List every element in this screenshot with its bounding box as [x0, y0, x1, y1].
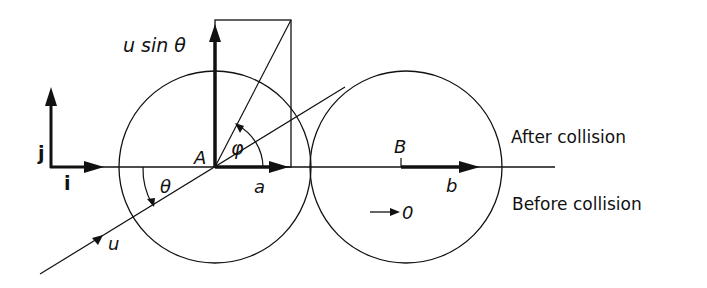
incoming-velocity-line — [40, 87, 345, 274]
resultant-velocity-line — [215, 20, 291, 167]
u-sin-theta-label: u sin θ — [123, 34, 186, 56]
vector-b-label: b — [446, 175, 457, 196]
angle-phi-label: φ — [231, 137, 244, 159]
up-arrow-icon — [209, 24, 221, 42]
j-arrow-icon — [45, 87, 57, 106]
collision-diagram: u sin θ A φ θ a B b u i j 0 After collis… — [0, 0, 707, 288]
u-arrow-icon — [92, 235, 103, 245]
vector-u-label: u — [108, 233, 119, 254]
vector-a-label: a — [254, 176, 265, 197]
unit-i-label: i — [64, 172, 71, 194]
phi-arrow-icon — [235, 123, 244, 133]
point-a-label: A — [193, 147, 206, 168]
after-collision-label: After collision — [511, 127, 626, 147]
angle-theta-label: θ — [160, 176, 171, 197]
a-arrow-icon — [269, 161, 289, 173]
zero-velocity-label: 0 — [402, 202, 413, 223]
zero-arrow-icon — [390, 208, 400, 216]
theta-arc — [143, 167, 152, 204]
b-arrow-icon — [459, 161, 480, 173]
unit-j-label: j — [37, 142, 45, 164]
before-collision-label: Before collision — [512, 194, 642, 214]
point-b-label: B — [394, 136, 406, 157]
i-arrow-icon — [84, 161, 104, 173]
